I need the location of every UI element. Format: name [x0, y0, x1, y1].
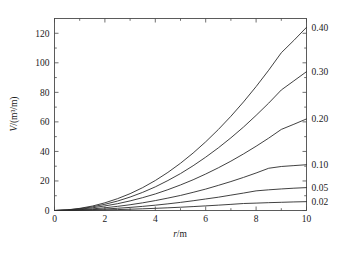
curve-series [55, 119, 307, 211]
x-tick-label: 8 [254, 214, 259, 224]
y-axis-title: V/(m³/m) [9, 96, 20, 131]
x-axis-title: r/m [173, 229, 187, 239]
y-axis-tick-labels: 020406080100120 [35, 29, 50, 216]
series-end-labels: 0.400.300.200.100.050.02 [312, 23, 329, 207]
y-tick-label: 20 [40, 176, 50, 186]
x-axis-tick-labels: 0246810 [52, 214, 311, 224]
series-end-label: 0.05 [312, 183, 329, 193]
data-curves [55, 27, 307, 210]
x-tick-label: 2 [103, 214, 108, 224]
curve-series [55, 165, 307, 211]
x-tick-label: 0 [52, 214, 57, 224]
y-tick-label: 120 [35, 29, 50, 39]
curve-series [55, 27, 307, 210]
series-end-label: 0.20 [312, 114, 329, 124]
x-tick-label: 4 [153, 214, 158, 224]
series-end-label: 0.10 [312, 160, 329, 170]
x-axis-title-unit: /m [177, 229, 188, 239]
series-end-label: 0.30 [312, 67, 329, 77]
y-tick-label: 60 [40, 117, 50, 127]
y-axis-title-unit: /(m³/m) [9, 96, 20, 125]
chart-plot-area: 0246810 020406080100120 0.400.300.200.10… [0, 0, 344, 255]
plot-frame [55, 19, 307, 211]
series-end-label: 0.40 [312, 23, 329, 33]
y-tick-label: 80 [40, 88, 50, 98]
y-tick-label: 100 [35, 58, 50, 68]
y-tick-label: 40 [40, 147, 50, 157]
y-tick-label: 0 [45, 206, 50, 216]
x-tick-label: 6 [203, 214, 208, 224]
axis-tick-marks [55, 19, 307, 211]
chart-figure: 0246810 020406080100120 0.400.300.200.10… [0, 0, 344, 255]
x-tick-label: 10 [302, 214, 312, 224]
series-end-label: 0.02 [312, 197, 329, 207]
